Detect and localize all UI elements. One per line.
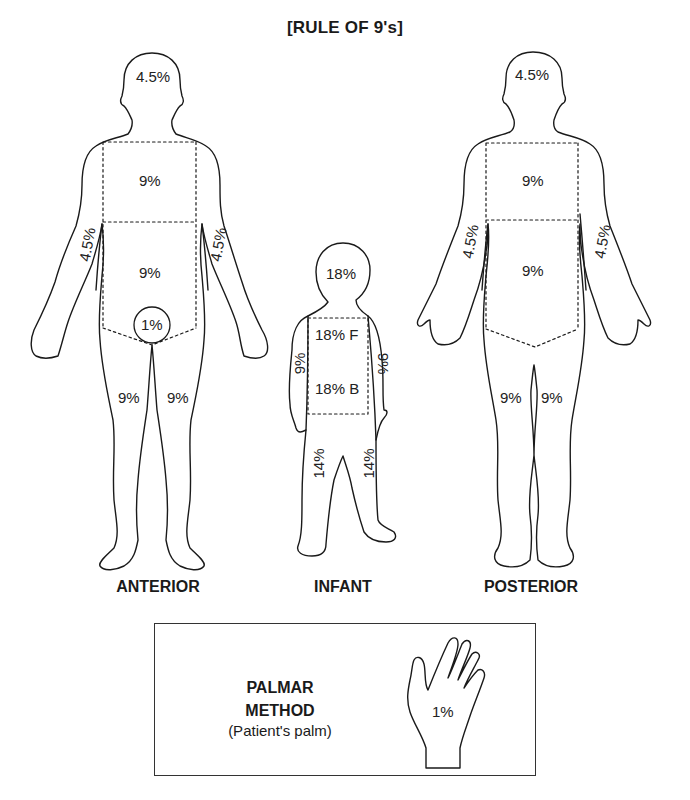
- posterior-left-leg-label: 9%: [500, 390, 522, 405]
- anterior-right-leg-label: 9%: [167, 390, 189, 405]
- infant-left-leg-label: 14%: [311, 448, 326, 478]
- anterior-genitals-label: 1%: [141, 317, 163, 332]
- posterior-right-leg-label: 9%: [541, 390, 563, 405]
- anterior-caption: ANTERIOR: [78, 578, 238, 596]
- anterior-left-leg-label: 9%: [118, 390, 140, 405]
- anterior-head-label: 4.5%: [136, 69, 170, 84]
- infant-right-arm-label: 9%: [376, 353, 391, 375]
- posterior-upper-back-label: 9%: [522, 173, 544, 188]
- palmar-title-line2: METHOD: [205, 699, 355, 722]
- anterior-abdomen-label: 9%: [139, 265, 161, 280]
- infant-left-arm-label: 9%: [292, 353, 307, 375]
- anterior-chest-label: 9%: [139, 173, 161, 188]
- posterior-head-label: 4.5%: [515, 67, 549, 82]
- infant-right-leg-label: 14%: [361, 448, 376, 478]
- anterior-figure-outline: [31, 53, 267, 570]
- infant-caption: INFANT: [263, 578, 423, 596]
- palmar-title: PALMAR METHOD: [205, 676, 355, 722]
- posterior-caption: POSTERIOR: [451, 578, 611, 596]
- infant-trunk-front-label: 18% F: [315, 327, 358, 342]
- palmar-method-box: PALMAR METHOD (Patient's palm): [154, 623, 536, 776]
- infant-figure-outline: [289, 243, 395, 556]
- palmar-title-line1: PALMAR: [205, 676, 355, 699]
- posterior-figure-outline: [417, 52, 650, 567]
- palm-value-label: 1%: [432, 704, 454, 719]
- posterior-lower-back-label: 9%: [522, 263, 544, 278]
- palmar-subtitle: (Patient's palm): [185, 722, 375, 739]
- infant-trunk-back-label: 18% B: [315, 381, 359, 396]
- infant-head-label: 18%: [326, 266, 356, 281]
